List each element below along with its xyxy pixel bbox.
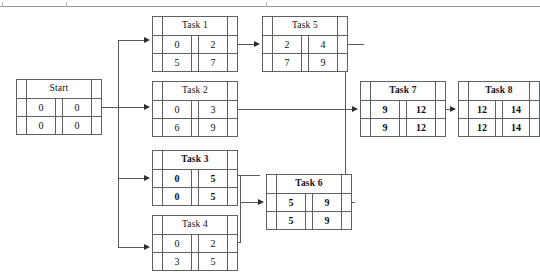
node-rail-right (227, 36, 237, 53)
node-rail-left (153, 17, 163, 35)
node-task5-late-finish: 9 (309, 54, 337, 71)
node-task1-label: Task 1 (163, 17, 227, 35)
edge-task5-bus (348, 44, 364, 45)
edge-start-stub (102, 107, 119, 108)
node-rail-left (459, 101, 469, 118)
node-cell-divider (191, 54, 199, 71)
node-rail-right (91, 99, 101, 116)
node-task6-early-finish: 9 (313, 194, 341, 211)
node-rail-left (459, 119, 469, 136)
arrowhead-task4 (144, 244, 150, 250)
node-task2-late-row: 6 9 (153, 119, 237, 136)
node-task2-late-finish: 9 (199, 119, 227, 136)
edge-task4-merge (238, 242, 241, 243)
node-cell-divider (191, 235, 199, 252)
edge-task3-merge (238, 175, 260, 176)
node-task4-title-row: Task 4 (153, 216, 237, 235)
node-task1-late-start: 5 (163, 54, 191, 71)
node-rail-right (529, 119, 539, 136)
node-rail-left (153, 253, 163, 270)
node-rail-right (227, 82, 237, 100)
node-cell-divider (495, 119, 503, 136)
page-rule-tick (266, 2, 267, 7)
node-rail-left (153, 170, 163, 187)
edge-task1-task5 (238, 44, 254, 45)
node-task8-late-finish: 14 (503, 119, 529, 136)
node-cell-divider (55, 117, 63, 134)
node-task8-label: Task 8 (469, 82, 529, 100)
node-task2-early-finish: 3 (199, 101, 227, 118)
node-rail-left (153, 54, 163, 71)
arrowhead-task2 (144, 104, 150, 110)
node-task5-late-row: 7 9 (263, 54, 347, 71)
node-rail-right (91, 117, 101, 134)
edge-start-task2 (118, 107, 144, 108)
node-task8[interactable]: Task 8 12 14 12 14 (458, 81, 540, 137)
node-task1[interactable]: Task 1 0 2 5 7 (152, 16, 238, 72)
node-start-late-row: 0 0 (17, 117, 101, 134)
node-task3-label: Task 3 (163, 151, 227, 169)
page-rule (0, 6, 540, 7)
node-cell-divider (55, 99, 63, 116)
node-rail-right (227, 188, 237, 205)
node-task4[interactable]: Task 4 0 2 3 5 (152, 215, 238, 271)
node-task4-early-row: 0 2 (153, 235, 237, 253)
node-rail-left (263, 36, 273, 53)
node-start-early-finish: 0 (63, 99, 91, 116)
node-task7-early-finish: 12 (407, 101, 435, 118)
node-task6-late-finish: 9 (313, 212, 341, 229)
node-rail-left (153, 36, 163, 53)
node-rail-left (267, 175, 277, 193)
node-cell-divider (191, 36, 199, 53)
node-rail-left (267, 194, 277, 211)
node-task7-late-finish: 12 (407, 119, 435, 136)
node-rail-right (341, 212, 351, 229)
node-rail-left (17, 99, 27, 116)
node-rail-left (153, 119, 163, 136)
page-rule-tick (2, 2, 3, 7)
node-cell-divider (191, 119, 199, 136)
node-task4-early-finish: 2 (199, 235, 227, 252)
node-task3[interactable]: Task 3 0 5 0 5 (152, 150, 238, 206)
node-task3-late-row: 0 5 (153, 188, 237, 205)
node-task5-late-start: 7 (273, 54, 301, 71)
node-task5[interactable]: Task 5 2 4 7 9 (262, 16, 348, 72)
node-task4-label: Task 4 (163, 216, 227, 234)
node-task8-early-start: 12 (469, 101, 495, 118)
node-task2[interactable]: Task 2 0 3 6 9 (152, 81, 238, 137)
node-task7-label: Task 7 (371, 82, 435, 100)
node-task6-label: Task 6 (277, 175, 341, 193)
node-task7[interactable]: Task 7 9 12 9 12 (360, 81, 446, 137)
node-start[interactable]: Start 0 0 0 0 (16, 79, 102, 135)
node-task1-early-start: 0 (163, 36, 191, 53)
node-task6[interactable]: Task 6 5 9 5 9 (266, 174, 352, 230)
node-rail-left (153, 151, 163, 169)
edge-start-task3 (118, 178, 144, 179)
node-task4-late-start: 3 (163, 253, 191, 270)
node-cell-divider (301, 36, 309, 53)
arrowhead-task5 (254, 41, 260, 47)
arrowhead-task8 (450, 106, 456, 112)
node-rail-left (153, 82, 163, 100)
node-task7-early-row: 9 12 (361, 101, 445, 119)
node-task7-late-start: 9 (371, 119, 399, 136)
node-task6-early-start: 5 (277, 194, 305, 211)
node-task5-label: Task 5 (273, 17, 337, 35)
node-rail-right (529, 101, 539, 118)
node-task2-late-start: 6 (163, 119, 191, 136)
node-task8-title-row: Task 8 (459, 82, 539, 101)
node-task4-late-row: 3 5 (153, 253, 237, 270)
node-rail-left (153, 188, 163, 205)
node-task2-label: Task 2 (163, 82, 227, 100)
edge-start-task4 (118, 247, 144, 248)
node-rail-right (91, 80, 101, 98)
node-cell-divider (301, 54, 309, 71)
node-start-early-start: 0 (27, 99, 55, 116)
node-task3-early-start: 0 (163, 170, 191, 187)
node-task3-title-row: Task 3 (153, 151, 237, 170)
node-task3-late-start: 0 (163, 188, 191, 205)
arrowhead-task1 (144, 37, 150, 43)
node-rail-left (153, 101, 163, 118)
node-task7-title-row: Task 7 (361, 82, 445, 101)
node-task5-early-row: 2 4 (263, 36, 347, 54)
